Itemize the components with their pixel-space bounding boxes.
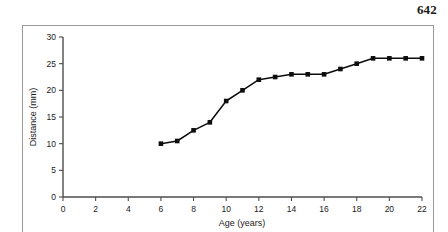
- data-point: [224, 99, 229, 104]
- x-tick-label-16: 16: [319, 204, 329, 214]
- y-axis-title: Distance (mm): [28, 88, 38, 147]
- data-point: [175, 139, 180, 144]
- x-tick-label-12: 12: [254, 204, 264, 214]
- data-point: [289, 72, 294, 77]
- x-tick-label-22: 22: [417, 204, 427, 214]
- y-tick-label-5: 5: [51, 165, 56, 175]
- x-tick-label-14: 14: [287, 204, 297, 214]
- data-point: [387, 56, 392, 61]
- data-point: [338, 67, 343, 72]
- x-axis-tick-labels: 0246810121416182022: [61, 204, 427, 214]
- x-tick-label-8: 8: [191, 204, 196, 214]
- y-tick-label-20: 20: [47, 85, 57, 95]
- growth-curve-chart: 051015202530 0246810121416182022 Distanc…: [22, 25, 434, 232]
- x-tick-label-10: 10: [221, 204, 231, 214]
- page-canvas: 642 051015202530 0246810121416182022 Dis…: [0, 0, 448, 232]
- data-point: [403, 56, 408, 61]
- data-point: [354, 61, 359, 66]
- data-point: [191, 128, 196, 133]
- y-tick-label-0: 0: [51, 192, 56, 202]
- x-tick-label-0: 0: [61, 204, 66, 214]
- data-point: [305, 72, 310, 77]
- x-axis-title: Age (years): [219, 218, 266, 228]
- y-tick-label-25: 25: [47, 59, 57, 69]
- x-tick-label-2: 2: [93, 204, 98, 214]
- data-point: [420, 56, 425, 61]
- data-point: [322, 72, 327, 77]
- data-point: [371, 56, 376, 61]
- data-point: [273, 75, 278, 80]
- y-axis-tick-labels: 051015202530: [47, 32, 57, 202]
- data-point: [240, 88, 245, 93]
- series-markers-distance: [159, 56, 425, 146]
- data-point: [257, 77, 262, 82]
- y-tick-label-30: 30: [47, 32, 57, 42]
- chart-axes: [63, 37, 422, 197]
- x-tick-label-6: 6: [159, 204, 164, 214]
- data-point: [159, 141, 164, 146]
- x-tick-label-4: 4: [126, 204, 131, 214]
- x-tick-label-18: 18: [352, 204, 362, 214]
- y-tick-label-15: 15: [47, 112, 57, 122]
- page-number: 642: [417, 2, 437, 18]
- series-line-distance: [161, 58, 422, 143]
- y-tick-label-10: 10: [47, 139, 57, 149]
- x-tick-label-20: 20: [385, 204, 395, 214]
- data-point: [208, 120, 213, 125]
